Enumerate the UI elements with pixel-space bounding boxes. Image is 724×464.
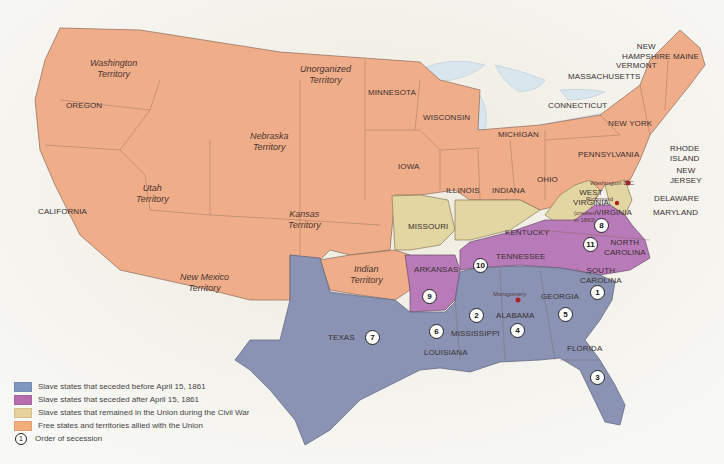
label-missouri: MISSOURI xyxy=(408,222,448,232)
label-massachusetts: MASSACHUSETTS xyxy=(568,72,640,82)
label-new-mexico-territory: New MexicoTerritory xyxy=(180,272,229,294)
legend-label: Order of secession xyxy=(35,434,102,443)
secession-marker-arkansas: 9 xyxy=(422,289,437,304)
legend-item-remained-union: Slave states that remained in the Union … xyxy=(14,406,249,419)
order-circle-icon: 1 xyxy=(15,433,27,445)
label-kentucky: KENTUCKY xyxy=(505,228,549,238)
label-michigan: MICHIGAN xyxy=(498,130,539,140)
legend-label: Slave states that remained in the Union … xyxy=(38,408,249,417)
secession-marker-mississippi: 2 xyxy=(469,308,484,323)
label-new-hampshire: NEWHAMPSHIRE xyxy=(622,42,670,62)
legend-item-free-union: Free states and territories allied with … xyxy=(14,419,249,432)
legend-label: Slave states that seceded after April 15… xyxy=(38,395,199,404)
legend-item-seceded-before: Slave states that seceded before April 1… xyxy=(14,380,249,393)
label-kansas-territory: KansasTerritory xyxy=(288,209,321,231)
label-georgia: GEORGIA xyxy=(541,292,579,302)
secession-marker-alabama: 4 xyxy=(510,323,525,338)
legend-swatch-purple xyxy=(14,395,32,405)
secession-marker-florida: 3 xyxy=(590,370,605,385)
label-nebraska-territory: NebraskaTerritory xyxy=(250,131,289,153)
label-vermont: VERMONT xyxy=(616,61,657,71)
label-illinois: ILLINOIS xyxy=(446,186,480,196)
label-maine: MAINE xyxy=(673,52,699,62)
secession-marker-south-carolina: 1 xyxy=(590,285,605,300)
secession-marker-georgia: 5 xyxy=(558,307,573,322)
label-connecticut: CONNECTICUT xyxy=(548,101,607,111)
legend-swatch-orange xyxy=(14,421,32,431)
label-tennessee: TENNESSEE xyxy=(496,252,545,262)
label-california: CALIFORNIA xyxy=(38,207,87,217)
label-ohio: OHIO xyxy=(537,175,558,185)
label-arkansas: ARKANSAS xyxy=(414,265,458,275)
secession-marker-virginia: 8 xyxy=(594,218,609,233)
legend-label: Free states and territories allied with … xyxy=(38,421,203,430)
label-utah-territory: UtahTerritory xyxy=(136,183,169,205)
capital-dot-montgomery xyxy=(516,298,521,303)
label-washington-territory: WashingtonTerritory xyxy=(90,58,137,80)
label-oregon: OREGON xyxy=(66,101,102,111)
label-wisconsin: WISCONSIN xyxy=(423,113,470,123)
label-florida: FLORIDA xyxy=(567,344,602,354)
label-south-carolina: SOUTHCAROLINA xyxy=(580,266,622,286)
label-north-carolina: NORTHCAROLINA xyxy=(604,238,646,258)
legend-item-order: 1 Order of secession xyxy=(14,432,249,445)
map-legend: Slave states that seceded before April 1… xyxy=(14,380,249,445)
label-virginia: VIRGINIA xyxy=(596,208,632,218)
label-delaware: DELAWARE xyxy=(654,194,699,204)
label-alabama: ALABAMA xyxy=(496,311,535,321)
legend-label: Slave states that seceded before April 1… xyxy=(38,382,206,391)
legend-swatch-blue xyxy=(14,382,32,392)
secession-marker-tennessee: 10 xyxy=(473,258,488,273)
label-washington-dc: Washington D.C. xyxy=(590,180,635,187)
label-new-jersey: NEWJERSEY xyxy=(670,166,702,186)
label-louisiana: LOUISIANA xyxy=(424,348,468,358)
label-maryland: MARYLAND xyxy=(653,208,698,218)
label-west-virginia-note: (createdin 1863) xyxy=(574,210,596,224)
label-mississippi: MISSISSIPPI xyxy=(451,329,500,339)
label-indian-territory: IndianTerritory xyxy=(350,264,383,286)
secession-marker-louisiana: 6 xyxy=(429,324,444,339)
label-iowa: IOWA xyxy=(398,162,419,172)
secession-marker-texas: 7 xyxy=(365,330,380,345)
legend-swatch-tan xyxy=(14,408,32,418)
label-minnesota: MINNESOTA xyxy=(368,88,416,98)
capital-dot-richmond xyxy=(615,201,619,205)
label-rhode-island: RHODEISLAND xyxy=(670,144,700,164)
label-texas: TEXAS xyxy=(328,333,355,343)
label-richmond: Richmond xyxy=(586,196,613,203)
label-new-york: NEW YORK xyxy=(608,119,652,129)
label-pennsylvania: PENNSYLVANIA xyxy=(578,150,639,160)
label-unorganized-territory: UnorganizedTerritory xyxy=(300,64,351,86)
label-indiana: INDIANA xyxy=(492,186,525,196)
legend-item-seceded-after: Slave states that seceded after April 15… xyxy=(14,393,249,406)
secession-marker-north-carolina: 11 xyxy=(583,237,598,252)
label-montgomery: Montgomery xyxy=(493,291,526,298)
